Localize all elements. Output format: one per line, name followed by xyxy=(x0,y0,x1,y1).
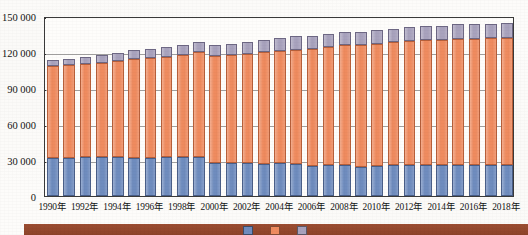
bar-segment-series-3 xyxy=(371,30,383,44)
x-axis-tick-label: 2010年 xyxy=(363,199,390,213)
segment-sheen xyxy=(421,166,431,195)
bar-segment-series-2 xyxy=(436,40,448,165)
bar-segment-series-2 xyxy=(63,65,75,157)
footer-strip xyxy=(24,224,528,235)
segment-sheen xyxy=(291,51,301,164)
x-axis-tick-label: 2000年 xyxy=(201,199,228,213)
segment-sheen xyxy=(227,56,237,162)
bar-segment-series-1 xyxy=(290,164,302,196)
bar-segment-series-3 xyxy=(96,55,108,63)
segment-sheen xyxy=(389,43,399,164)
segment-sheen xyxy=(502,166,512,195)
segment-sheen xyxy=(308,167,318,195)
legend xyxy=(24,226,528,235)
segment-sheen xyxy=(372,167,382,195)
segment-sheen xyxy=(194,43,204,51)
bar-column xyxy=(258,17,270,196)
bar-segment-series-1 xyxy=(161,157,173,196)
segment-sheen xyxy=(129,51,139,57)
segment-sheen xyxy=(259,41,269,51)
bar-segment-series-1 xyxy=(371,166,383,196)
bar-segment-series-1 xyxy=(469,165,481,196)
segment-sheen xyxy=(64,60,74,65)
segment-sheen xyxy=(210,46,220,55)
bar-segment-series-1 xyxy=(388,165,400,196)
segment-sheen xyxy=(324,35,334,46)
x-axis-tick-label: 2012年 xyxy=(395,199,422,213)
segment-sheen xyxy=(275,164,285,195)
bar-segment-series-3 xyxy=(274,38,286,51)
bar-segment-series-2 xyxy=(47,66,59,158)
bar-segment-series-2 xyxy=(145,58,157,158)
bar-segment-series-1 xyxy=(452,165,464,196)
bar-segment-series-1 xyxy=(145,158,157,196)
bar-segment-series-2 xyxy=(371,44,383,166)
bar-segment-series-1 xyxy=(436,165,448,196)
bar-column xyxy=(323,17,335,196)
segment-sheen xyxy=(502,24,512,36)
segment-sheen xyxy=(437,41,447,164)
bar-segment-series-2 xyxy=(177,55,189,157)
bar-segment-series-1 xyxy=(63,158,75,196)
legend-item xyxy=(243,226,256,235)
legend-swatch xyxy=(270,226,280,235)
y-axis-tick xyxy=(44,90,46,91)
segment-sheen xyxy=(81,58,91,63)
segment-sheen xyxy=(486,25,496,37)
bar-segment-series-3 xyxy=(226,44,238,55)
x-axis-tick-label: 1996年 xyxy=(136,199,163,213)
bar-segment-series-1 xyxy=(258,164,270,196)
segment-sheen xyxy=(470,166,480,195)
bar-column xyxy=(469,17,481,196)
segment-sheen xyxy=(340,46,350,163)
segment-sheen xyxy=(227,164,237,195)
bar-segment-series-3 xyxy=(436,26,448,40)
segment-sheen xyxy=(453,166,463,195)
bar-column xyxy=(371,17,383,196)
bar-segment-series-1 xyxy=(274,163,286,196)
y-axis-tick-label: 90 000 xyxy=(7,84,36,95)
bar-column xyxy=(193,17,205,196)
bar-segment-series-2 xyxy=(258,52,270,164)
x-axis-tick-label: 2006年 xyxy=(298,199,325,213)
bar-segment-series-1 xyxy=(112,157,124,196)
bar-segment-series-1 xyxy=(339,165,351,196)
x-axis-tick-label: 1998年 xyxy=(168,199,195,213)
segment-sheen xyxy=(113,62,123,156)
bar-segment-series-2 xyxy=(128,59,140,158)
bar-segment-series-3 xyxy=(80,57,92,64)
segment-sheen xyxy=(162,158,172,195)
segment-sheen xyxy=(486,39,496,164)
segment-sheen xyxy=(389,30,399,42)
segment-sheen xyxy=(243,55,253,162)
bar-column xyxy=(226,17,238,196)
y-axis-tick xyxy=(44,18,46,19)
bar-column xyxy=(339,17,351,196)
bar-segment-series-1 xyxy=(209,163,221,196)
bar-column xyxy=(128,17,140,196)
bar-segment-series-3 xyxy=(307,36,319,49)
y-axis-tick xyxy=(44,162,46,163)
segment-sheen xyxy=(146,159,156,195)
bar-segment-series-3 xyxy=(209,45,221,56)
segment-sheen xyxy=(405,166,415,195)
segment-sheen xyxy=(81,65,91,156)
bar-segment-series-1 xyxy=(47,158,59,196)
segment-sheen xyxy=(356,168,366,195)
segment-sheen xyxy=(178,46,188,54)
x-axis-tick-label: 2002年 xyxy=(233,199,260,213)
bar-segment-series-1 xyxy=(80,157,92,196)
bar-segment-series-1 xyxy=(485,165,497,196)
bar-column xyxy=(80,17,92,196)
x-axis-labels: 1990年1992年1994年1996年1998年2000年2002年2004年… xyxy=(0,199,528,215)
y-axis-tick-label: 120 000 xyxy=(2,48,36,59)
bar-segment-series-3 xyxy=(404,27,416,41)
bar-segment-series-2 xyxy=(193,52,205,157)
bar-segment-series-3 xyxy=(161,47,173,57)
x-axis-tick-label: 2016年 xyxy=(460,199,487,213)
segment-sheen xyxy=(486,166,496,195)
bar-segment-series-3 xyxy=(290,36,302,49)
bar-segment-series-2 xyxy=(339,45,351,164)
bar-segment-series-3 xyxy=(128,50,140,58)
segment-sheen xyxy=(210,164,220,195)
